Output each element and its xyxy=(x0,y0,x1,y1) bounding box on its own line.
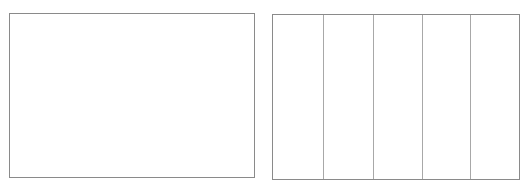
column-divider xyxy=(470,15,471,179)
column-divider xyxy=(422,15,423,179)
empty-panel xyxy=(9,13,255,178)
column-panel xyxy=(272,14,520,180)
column-divider xyxy=(323,15,324,179)
column-divider xyxy=(373,15,374,179)
